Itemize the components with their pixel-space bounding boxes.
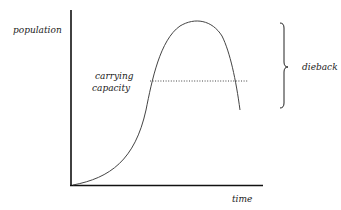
dieback-label: dieback [302, 62, 338, 72]
y-axis-label: population [13, 25, 62, 35]
dieback-brace [280, 23, 288, 108]
carrying-capacity-label-line2: capacity [92, 83, 131, 93]
carrying-capacity-label-line1: carrying [95, 71, 134, 81]
x-axis-label: time [232, 194, 252, 204]
population-curve [73, 21, 240, 185]
population-dieback-diagram: population time carrying capacity diebac… [0, 0, 341, 210]
